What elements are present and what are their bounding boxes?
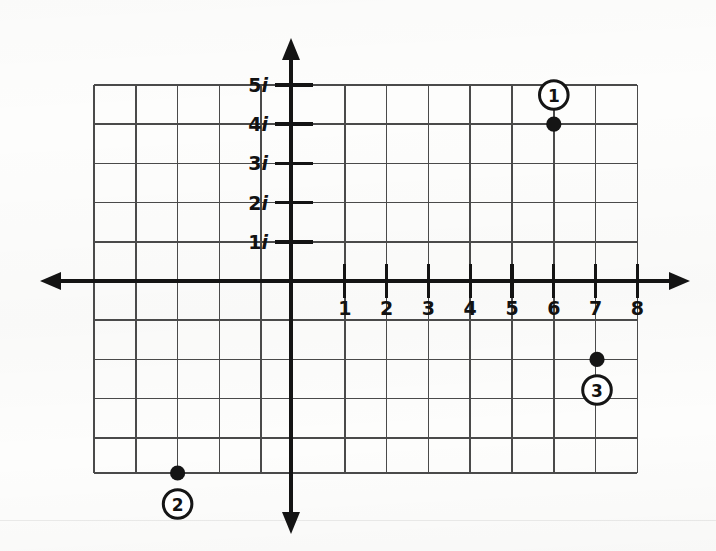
point-marker-dot[interactable] (170, 465, 185, 480)
axis-tick-label-2: 2 (380, 297, 393, 319)
point-callout-label-1: 1 (548, 86, 560, 106)
point-marker-dot[interactable] (546, 117, 561, 132)
axis-tick-label-8: 8 (631, 297, 644, 319)
point-marker-dot[interactable] (589, 352, 604, 367)
real-axis (40, 272, 690, 290)
coordinate-plane-svg: 5i 4i 3i 2i 1i 1 2 3 4 5 6 7 8 (0, 0, 716, 551)
axis-tick-label-2i: 2i (248, 192, 268, 214)
axis-tick-label-3: 3 (422, 297, 435, 319)
real-axis-tick-labels: 1 2 3 4 5 6 7 8 (338, 297, 644, 319)
grid-lines (94, 85, 637, 473)
imaginary-axis-tick-labels: 5i 4i 3i 2i 1i (248, 74, 268, 253)
arrow-down-icon (282, 512, 300, 534)
imaginary-axis-ticks (275, 85, 313, 242)
axis-tick-label-6: 6 (547, 297, 560, 319)
figure-canvas: 5i 4i 3i 2i 1i 1 2 3 4 5 6 7 8 (0, 0, 716, 551)
point-callout-label-3: 3 (591, 381, 603, 401)
axis-tick-label-1: 1 (338, 297, 351, 319)
axis-tick-label-5i: 5i (248, 74, 268, 96)
axis-tick-label-1i: 1i (248, 231, 268, 253)
axis-tick-label-4: 4 (464, 297, 477, 319)
arrow-right-icon (669, 272, 690, 290)
axis-tick-label-7: 7 (589, 297, 602, 319)
axis-tick-label-5: 5 (505, 297, 518, 319)
axis-tick-label-4i: 4i (248, 113, 268, 135)
arrow-left-icon (40, 272, 61, 290)
imaginary-axis (282, 38, 300, 534)
point-callout-label-2: 2 (172, 495, 184, 515)
axis-tick-label-3i: 3i (248, 152, 268, 174)
arrow-up-icon (282, 38, 300, 60)
